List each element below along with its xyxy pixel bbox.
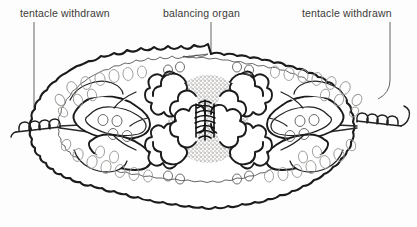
leader-line-right: [378, 22, 390, 99]
label-tentacle-withdrawn-left: tentacle withdrawn: [20, 7, 110, 19]
left-tentacle-tip: [11, 132, 16, 137]
label-balancing-organ: balancing organ: [163, 7, 240, 19]
right-tentacle-tip: [401, 106, 409, 126]
balancing-organ-figure: tentacle withdrawn balancing organ tenta…: [0, 0, 417, 227]
right-tentacle-curls: [357, 113, 398, 125]
label-tentacle-withdrawn-right: tentacle withdrawn: [302, 7, 392, 19]
right-tentacle-shaft: [357, 121, 401, 126]
right-withdrawn-tentacle: [357, 106, 410, 126]
